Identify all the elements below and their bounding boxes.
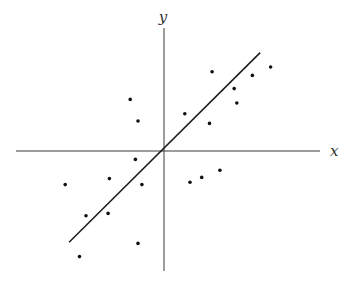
data-point bbox=[269, 65, 273, 69]
data-point bbox=[128, 98, 132, 102]
data-point bbox=[183, 112, 187, 116]
data-point bbox=[108, 177, 112, 181]
y-axis-label: y bbox=[158, 8, 168, 26]
regression-line bbox=[69, 53, 260, 243]
data-point bbox=[232, 87, 236, 91]
data-point bbox=[200, 176, 204, 180]
data-point bbox=[251, 74, 255, 78]
scatter-plot: x y bbox=[0, 0, 345, 281]
data-point bbox=[63, 183, 67, 187]
data-point bbox=[208, 122, 212, 126]
data-point bbox=[140, 183, 144, 187]
data-point bbox=[235, 101, 239, 105]
data-point bbox=[84, 214, 88, 218]
data-point bbox=[134, 158, 138, 162]
data-point bbox=[210, 70, 214, 74]
data-point bbox=[188, 180, 192, 184]
data-point bbox=[106, 212, 110, 216]
data-point bbox=[78, 255, 82, 259]
data-point bbox=[136, 242, 140, 246]
data-points bbox=[63, 65, 272, 258]
data-point bbox=[136, 119, 140, 123]
x-axis-label: x bbox=[330, 142, 339, 160]
data-point bbox=[218, 168, 222, 172]
